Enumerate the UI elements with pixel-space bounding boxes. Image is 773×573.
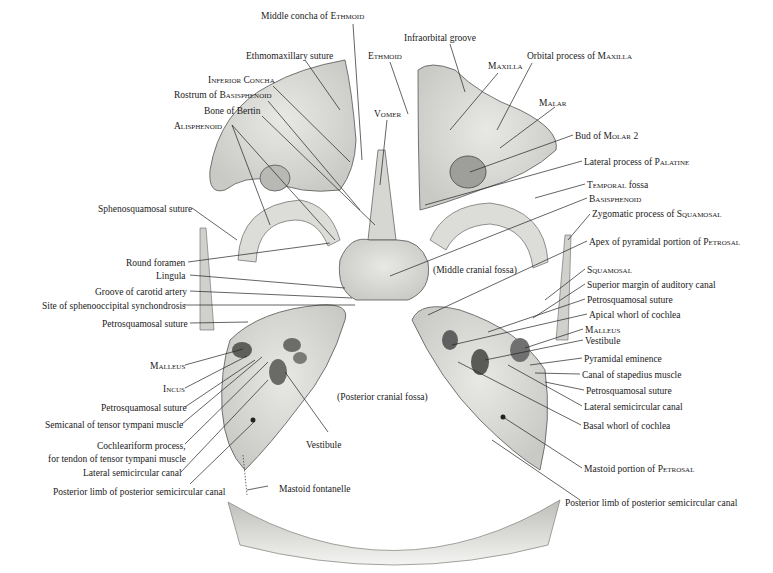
label-cochleariform-process-line2: for tendon of tensor tympani muscle: [48, 454, 186, 465]
label-ethmoid: Ethmoid: [368, 51, 402, 62]
label-groove-carotid-artery: Groove of carotid artery: [95, 287, 187, 298]
basisphenoid: [339, 239, 428, 300]
label-rostrum-basisphenoid: Rostrum of Basisphenoid: [174, 90, 272, 101]
label-inferior-concha: Inferior Concha: [208, 75, 275, 86]
label-malleus-left: Malleus: [150, 361, 185, 372]
label-lateral-semicircular-canal-left: Lateral semicircular canal: [83, 468, 182, 479]
label-incus-left: Incus: [163, 384, 185, 395]
region-middle-cranial-fossa: (Middle cranial fossa): [433, 265, 517, 276]
label-squamosal: Squamosal: [587, 265, 632, 276]
right-maxilla: [418, 65, 556, 210]
label-basal-whorl-cochlea: Basal whorl of cochlea: [583, 421, 670, 432]
label-basisphenoid: Basisphenoid: [589, 194, 641, 205]
left-alisphenoid-arch: [238, 200, 340, 262]
label-superior-margin-auditory-canal: Superior margin of auditory canal: [587, 280, 716, 291]
label-pyramidal-eminence: Pyramidal eminence: [584, 354, 662, 365]
right-petrous-bone: [412, 307, 548, 470]
label-sphenosquamosal-suture: Sphenosquamosal suture: [98, 204, 192, 215]
right-ear-cavity-1: [442, 330, 458, 350]
label-zygomatic-process-squamosal: Zygomatic process of Squamosal: [592, 209, 722, 220]
label-maxilla: Maxilla: [488, 61, 523, 72]
label-lateral-process-palatine: Lateral process of Palatine: [584, 157, 689, 168]
label-orbital-process-maxilla: Orbital process of Maxilla: [527, 51, 632, 62]
label-round-foramen: Round foramen: [126, 258, 185, 269]
label-semicanal-tensor-tympani: Semicanal of tensor tympani muscle: [45, 420, 183, 431]
label-posterior-limb-right: Posterior limb of posterior semicircular…: [565, 498, 737, 509]
region-posterior-cranial-fossa: (Posterior cranial fossa): [337, 392, 428, 403]
right-ear-cavity-2: [471, 349, 489, 375]
label-petrosquamosal-suture-left-1: Petrosquamosal suture: [102, 319, 188, 330]
left-ear-cavity-3: [293, 352, 307, 364]
left-ear-cavity-2: [283, 338, 301, 352]
label-petrosquamosal-suture-right-1: Petrosquamosal suture: [587, 295, 673, 306]
label-bone-of-bertin: Bone of Bertin: [204, 106, 260, 117]
label-middle-concha: Middle concha of Ethmoid: [261, 11, 364, 22]
label-ethmomaxillary-suture: Ethmomaxillary suture: [246, 51, 333, 62]
label-canal-stapedius-muscle: Canal of stapedius muscle: [582, 370, 681, 381]
label-petrosquamosal-suture-right-2: Petrosquamosal suture: [586, 386, 672, 397]
label-cochleariform-process: Cochleariform process,: [97, 441, 186, 452]
label-posterior-limb-left: Posterior limb of posterior semicircular…: [53, 487, 225, 498]
label-temporal-fossa: Temporal fossa: [587, 180, 648, 191]
label-apical-whorl-cochlea: Apical whorl of cochlea: [589, 310, 681, 321]
right-zygomatic-process: [556, 235, 571, 340]
left-zygomatic-process: [200, 228, 214, 330]
label-mastoid-fontanelle: Mastoid fontanelle: [279, 484, 351, 495]
label-petrosquamosal-suture-left-2: Petrosquamosal suture: [101, 403, 187, 414]
label-vestibule-right: Vestibule: [585, 336, 620, 347]
occipital-bone: [228, 500, 560, 565]
left-molar-bud: [260, 165, 290, 191]
label-sphenooccipital-synchondrosis: Site of sphenooccipital synchondrosis: [42, 301, 186, 312]
label-malar: Malar: [539, 98, 567, 109]
label-alisphenoid: Alisphenoid: [174, 121, 222, 132]
label-vestibule-left: Vestibule: [306, 440, 341, 451]
right-alisphenoid-arch: [430, 203, 548, 268]
label-infraorbital-groove: Infraorbital groove: [404, 33, 476, 44]
left-ear-cavity-1: [232, 342, 252, 358]
label-vomer: Vomer: [374, 109, 401, 120]
right-ear-cavity-3: [510, 338, 530, 362]
label-lateral-semicircular-canal-right: Lateral semicircular canal: [584, 402, 683, 413]
label-bud-of-molar-2: Bud of Molar 2: [575, 131, 638, 142]
label-lingula: Lingula: [156, 271, 186, 282]
label-mastoid-portion-petrosal: Mastoid portion of Petrosal: [584, 464, 694, 475]
label-malleus-right: Malleus: [585, 325, 620, 336]
label-apex-pyramidal-petrosal: Apex of pyramidal portion of Petrosal: [589, 237, 740, 248]
right-molar-bud: [450, 156, 486, 188]
left-ear-cavity-4: [269, 359, 287, 385]
skull-base-figure: (Middle cranial fossa) (Posterior crania…: [0, 0, 773, 573]
